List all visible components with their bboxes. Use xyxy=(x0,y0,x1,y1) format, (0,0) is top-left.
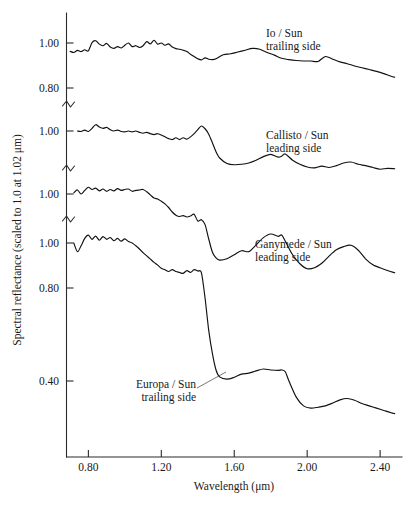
europa-label-line2: trailing side xyxy=(141,391,196,404)
y-tick-label-europa-0.40: 0.40 xyxy=(39,375,59,387)
x-tick-label-2.00: 2.00 xyxy=(297,461,317,473)
chart-svg: 1.00 0.80 1.00 1.00 1.00 0.80 0.40 0.801… xyxy=(0,0,420,517)
io-label-line2: trailing side xyxy=(266,40,321,53)
ganymede-label-line1: Ganymede / Sun xyxy=(255,238,332,251)
x-tick-label-2.40: 2.40 xyxy=(370,461,390,473)
y-axis-title: Spectral reflectance (scaled to 1.0 at 1… xyxy=(11,134,24,346)
europa-label-line1: Europa / Sun xyxy=(136,378,196,391)
y-tick-label-io-1.00: 1.00 xyxy=(39,37,59,49)
x-tick-label-1.60: 1.60 xyxy=(224,461,244,473)
io-label-line1: Io / Sun xyxy=(266,27,303,39)
x-tick-label-0.80: 0.80 xyxy=(78,461,98,473)
callisto-label-line2: leading side xyxy=(266,142,321,155)
y-tick-label-callisto-1.00: 1.00 xyxy=(39,125,59,137)
y-tick-label-io-0.80: 0.80 xyxy=(39,82,59,94)
figure-background xyxy=(0,0,420,517)
callisto-label-line1: Callisto / Sun xyxy=(266,129,329,141)
x-axis-title: Wavelength (μm) xyxy=(194,480,274,493)
ganymede-label-line2: leading side xyxy=(255,251,310,264)
spectral-reflectance-figure: 1.00 0.80 1.00 1.00 1.00 0.80 0.40 0.801… xyxy=(0,0,420,517)
x-tick-label-1.20: 1.20 xyxy=(151,461,171,473)
y-tick-label-europa-0.80: 0.80 xyxy=(39,282,59,294)
y-tick-label-europa-1.00: 1.00 xyxy=(39,237,59,249)
y-tick-label-ganymede-1.00: 1.00 xyxy=(39,188,59,200)
